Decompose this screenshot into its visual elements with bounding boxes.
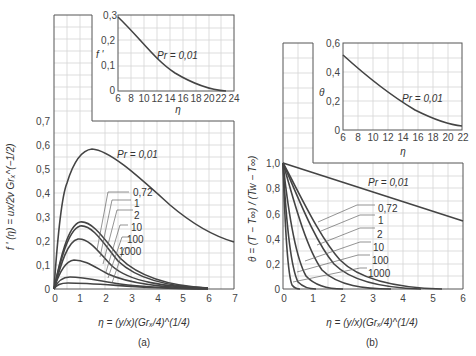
panel-b-xlabel: η = (y/x)(Grₓ/4)^(1/4): [326, 317, 418, 328]
xtick: 20: [203, 93, 215, 104]
ytick: 0,6: [266, 209, 280, 220]
xtick: 0: [52, 293, 58, 304]
xtick: 4: [155, 293, 161, 304]
ytick: 0: [274, 284, 280, 295]
panel-b-xticks: 0 1 2 3 4 5 6: [281, 293, 466, 304]
xtick: 10: [367, 132, 379, 143]
panel-a-inset-yticks: 0 0,1 0,2 0,3: [101, 10, 117, 96]
panel-b-pr-label: 2: [377, 229, 383, 240]
ytick: 0,6: [326, 38, 340, 49]
panel-a-text: Pr = 0,01 0,72 1 2 10 100 1000 0 1 2 3 4…: [5, 10, 240, 348]
panel-b-pr-label: 1: [378, 215, 384, 226]
xtick: 1: [77, 293, 83, 304]
ytick: 0,3: [103, 10, 117, 21]
panel-a-xlabel: η = (y/x)(Grₓ/4)^(1/4): [98, 317, 190, 328]
ytick: 0,2: [266, 259, 280, 270]
panel-b-pr-label: 10: [373, 242, 385, 253]
panel-a-inset-ylabel: f ': [96, 49, 105, 60]
xtick: 12: [151, 93, 163, 104]
panel-a-pr-top-label: Pr = 0,01: [117, 149, 158, 160]
xtick: 3: [129, 293, 135, 304]
xtick: 6: [340, 132, 346, 143]
xtick: 5: [430, 293, 436, 304]
xtick: 1: [310, 293, 316, 304]
panel-a-pr-label: 10: [131, 222, 143, 233]
ytick: 0,8: [266, 183, 280, 194]
xtick: 2: [340, 293, 346, 304]
xtick: 20: [442, 132, 454, 143]
xtick: 22: [215, 93, 227, 104]
ytick: 0,4: [266, 234, 280, 245]
ytick: 0,6: [36, 140, 50, 151]
ytick: 0,2: [326, 96, 340, 107]
xtick: 6: [115, 93, 121, 104]
panel-a-xticks: 0 1 2 3 4 5 6 7: [52, 293, 238, 304]
panel-a-pr-label: 100: [127, 234, 144, 245]
ytick: 0,3: [36, 212, 50, 223]
panel-a-pr-label: 2: [134, 210, 140, 221]
xtick: 14: [397, 132, 409, 143]
xtick: 8: [355, 132, 361, 143]
ytick: 0,2: [101, 35, 115, 46]
panel-b-inset-ylabel: θ: [319, 87, 325, 98]
panel-a-caption: (a): [138, 337, 150, 348]
xtick: 4: [400, 293, 406, 304]
panel-b-inset-curve-label: Pr = 0,01: [402, 93, 443, 104]
xtick: 2: [103, 293, 109, 304]
panel-b-yticks: 0 0,2 0,4 0,6 0,8 1,0: [266, 158, 280, 295]
panel-b-inset-curve: [343, 55, 462, 126]
panel-a-inset-xticks: 6 8 10 12 14 16 18 20 22 24: [115, 93, 240, 104]
xtick: 8: [128, 93, 134, 104]
xtick: 24: [228, 93, 240, 104]
xtick: 10: [138, 93, 150, 104]
xtick: 14: [164, 93, 176, 104]
xtick: 6: [460, 293, 466, 304]
ytick: 0: [44, 284, 50, 295]
ytick: 0,5: [36, 164, 50, 175]
xtick: 12: [382, 132, 394, 143]
panel-b-inset-frame: [343, 43, 462, 130]
xtick: 18: [427, 132, 439, 143]
xtick: 0: [281, 293, 287, 304]
ytick: 0,4: [36, 188, 50, 199]
xtick: 16: [177, 93, 189, 104]
panel-a-inset-curve-label: Pr = 0,01: [157, 50, 198, 61]
ytick: 1,0: [266, 158, 280, 169]
panel-a-inset-xlabel: η: [175, 104, 181, 115]
panel-a-pr-label: 0,72: [133, 187, 153, 198]
xtick: 7: [232, 293, 238, 304]
panel-b-pr-label: 0,72: [378, 203, 398, 214]
panel-b-pr-top-label: Pr = 0,01: [368, 177, 409, 188]
panel-b-caption: (b): [366, 337, 378, 348]
ytick: 0,1: [36, 260, 50, 271]
panel-a-pr-label: 1000: [119, 246, 142, 257]
panel-a-yticks: 0 0,1 0,2 0,3 0,4 0,5 0,6 0,7: [36, 116, 50, 295]
xtick: 3: [370, 293, 376, 304]
panel-a-ylabel: f ' (η) = ux/2ν Grₓ^(−1/2): [5, 143, 16, 250]
xtick: 6: [206, 293, 212, 304]
panel-b-inset-xticks: 6 8 10 12 14 16 18 20 22: [340, 132, 469, 143]
panel-b-inset-xlabel: η: [400, 146, 406, 157]
ytick: 0: [334, 125, 340, 136]
panel-a-pr-label: 1: [134, 198, 140, 209]
ytick: 0,1: [101, 60, 115, 71]
figure: Pr = 0,01 0,72 1 2 10 100 1000 0 1 2 3 4…: [0, 0, 476, 356]
panel-b-pr-label: 1000: [368, 268, 391, 279]
panel-b-pr-label: 100: [372, 255, 389, 266]
xtick: 16: [412, 132, 424, 143]
xtick: 18: [190, 93, 202, 104]
xtick: 22: [457, 132, 469, 143]
xtick: 5: [180, 293, 186, 304]
ytick: 0: [109, 85, 115, 96]
panel-b-ylabel: θ = (T − T∞) / (Tw − T∞): [247, 156, 258, 262]
panel-b-inset-yticks: 0 0,2 0,4 0,6: [326, 38, 340, 136]
ytick: 0,4: [326, 67, 340, 78]
ytick: 0,7: [36, 116, 50, 127]
ytick: 0,2: [36, 236, 50, 247]
panel-b-leaders: [293, 205, 375, 282]
